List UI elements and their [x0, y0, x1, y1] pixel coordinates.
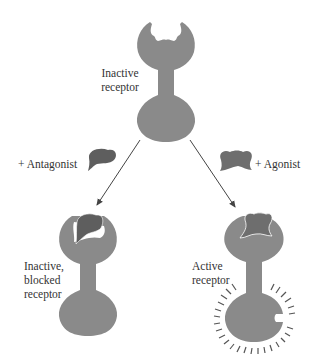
left-label-line1: Inactive, — [24, 260, 64, 273]
top-label-line2: receptor — [101, 81, 139, 94]
agonist-label: + Agonist — [255, 158, 301, 171]
right-label-line1: Active — [192, 260, 223, 272]
blocked-receptor — [59, 214, 117, 336]
antagonist-ligand-icon — [88, 149, 116, 171]
top-label-line1: Inactive — [101, 67, 138, 79]
inactive-receptor — [137, 22, 195, 142]
antagonist-label: + Antagonist — [18, 158, 78, 171]
right-label-line2: receptor — [192, 274, 230, 287]
agonist-ligand-icon — [220, 151, 252, 172]
receptor-diagram: Inactive receptor + Antagonist + Agonist… — [0, 0, 314, 354]
left-label-line2: blocked — [24, 274, 61, 286]
arrow-to-agonist — [190, 140, 235, 207]
left-label-line3: receptor — [24, 288, 62, 301]
